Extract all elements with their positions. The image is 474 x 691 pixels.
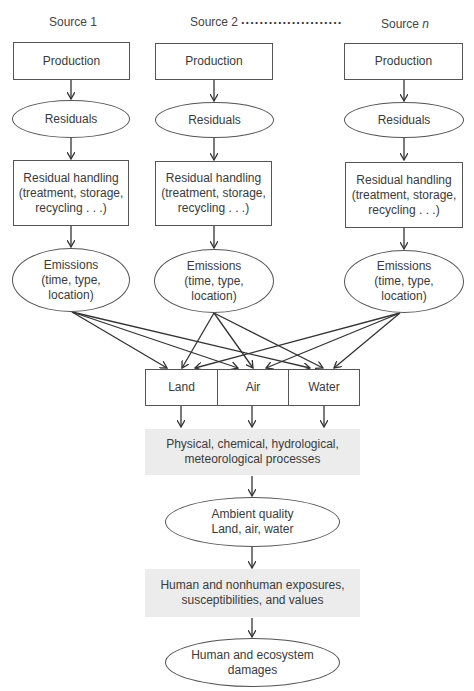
- emissions-text: Emissions (time, type, location): [374, 259, 433, 304]
- source-n-label: Source n: [381, 17, 429, 31]
- source-1-handling-box: Residual handling (treatment, storage, r…: [13, 160, 129, 226]
- water-text: Water: [308, 380, 340, 395]
- source-2-production-box: Production: [155, 43, 273, 80]
- exposures-text: Human and nonhuman exposures, susceptibi…: [160, 578, 344, 608]
- source-1-production-box: Production: [13, 42, 130, 80]
- source-n-residuals-ellipse: Residuals: [344, 102, 464, 138]
- source-2-residuals-ellipse: Residuals: [155, 102, 274, 138]
- production-text: Production: [375, 54, 432, 69]
- ambient-quality-text: Ambient quality Land, air, water: [211, 507, 293, 537]
- media-air-box: Air: [217, 369, 289, 406]
- source-1-emissions-ellipse: Emissions (time, type, location): [12, 248, 130, 312]
- handling-text: Residual handling (treatment, storage, r…: [19, 171, 124, 216]
- source-n-prefix: Source: [381, 17, 422, 31]
- air-text: Air: [246, 380, 261, 395]
- source-2-emissions-ellipse: Emissions (time, type, location): [154, 249, 274, 313]
- source-2-label: Source 2: [190, 15, 238, 29]
- residuals-text: Residuals: [378, 113, 431, 128]
- handling-text: Residual handling (treatment, storage, r…: [161, 171, 266, 216]
- residuals-text: Residuals: [45, 112, 98, 127]
- media-water-box: Water: [288, 369, 360, 406]
- emissions-text: Emissions (time, type, location): [184, 259, 243, 304]
- source-n-variable: n: [422, 17, 429, 31]
- residuals-text: Residuals: [188, 113, 241, 128]
- land-text: Land: [168, 380, 195, 395]
- damages-ellipse: Human and ecosystem damages: [165, 638, 340, 687]
- emissions-text: Emissions (time, type, location): [41, 258, 100, 303]
- production-text: Production: [185, 54, 242, 69]
- source-1-residuals-ellipse: Residuals: [12, 100, 130, 138]
- damages-text: Human and ecosystem damages: [191, 648, 314, 678]
- source-n-production-box: Production: [344, 43, 463, 80]
- source-1-label: Source 1: [49, 15, 97, 29]
- source-n-handling-box: Residual handling (treatment, storage, r…: [345, 162, 463, 228]
- processes-box: Physical, chemical, hydrological, meteor…: [145, 429, 360, 475]
- ambient-quality-ellipse: Ambient quality Land, air, water: [165, 497, 340, 547]
- source-n-emissions-ellipse: Emissions (time, type, location): [344, 250, 464, 313]
- production-text: Production: [43, 54, 100, 69]
- ellipsis-dots: ......................: [241, 12, 342, 27]
- exposures-box: Human and nonhuman exposures, susceptibi…: [145, 569, 360, 617]
- source-2-handling-box: Residual handling (treatment, storage, r…: [155, 161, 272, 226]
- handling-text: Residual handling (treatment, storage, r…: [352, 173, 457, 218]
- media-land-box: Land: [145, 369, 218, 406]
- processes-text: Physical, chemical, hydrological, meteor…: [166, 437, 339, 467]
